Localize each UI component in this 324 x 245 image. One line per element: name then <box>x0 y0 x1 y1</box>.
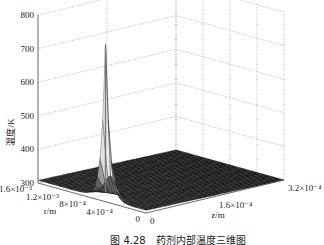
surface <box>38 45 284 211</box>
r-tick-label: 1.6×10⁻³ <box>0 184 32 194</box>
z-axis-label: 温度/K <box>5 118 16 146</box>
r-tick-label: 4×10⁻⁴ <box>86 207 113 217</box>
x-axis-label: z/m <box>211 210 225 220</box>
grid-line-temp <box>38 16 284 49</box>
temperature-tick-label: 600 <box>21 77 35 87</box>
grid-line-temp <box>38 0 284 15</box>
temperature-tick-label: 500 <box>21 111 35 121</box>
r-axis-label: r/m <box>44 206 57 216</box>
z-tick-label: 1.6×10⁻⁴ <box>219 200 252 210</box>
temperature-tick-label: 700 <box>21 44 35 54</box>
surface-chart: 30040050060070080004×10⁻⁴8×10⁻⁴1.2×10⁻³1… <box>0 0 324 245</box>
grid-line-temp <box>38 83 284 116</box>
r-tick-label: 0 <box>136 214 141 224</box>
grid-line-temp <box>38 116 284 149</box>
z-tick-label: 0 <box>150 216 155 226</box>
r-tick-label: 8×10⁻⁴ <box>59 199 86 209</box>
temperature-tick-label: 400 <box>21 144 35 154</box>
figure-caption: 图 4.28 药剂内部温度三维图 <box>110 234 245 245</box>
z-tick-label: 3.2×10⁻⁴ <box>288 183 321 193</box>
grid-line-temp <box>38 49 284 82</box>
temperature-tick-label: 800 <box>21 10 35 20</box>
